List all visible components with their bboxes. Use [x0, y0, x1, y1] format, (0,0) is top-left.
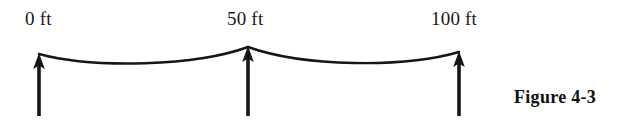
station-label-0ft: 0 ft: [25, 9, 52, 28]
support-arrow-0ft: [33, 53, 45, 116]
figure-caption: Figure 4-3: [514, 88, 596, 106]
cable-span-right: [248, 47, 459, 63]
figure-4-3-diagram: 0 ft 50 ft 100 ft Figure 4-3: [0, 0, 629, 124]
cable-span-left: [39, 47, 248, 64]
station-label-100ft: 100 ft: [431, 9, 477, 28]
support-arrow-100ft: [453, 51, 465, 116]
support-arrow-50ft: [242, 46, 254, 116]
station-label-50ft: 50 ft: [227, 9, 263, 28]
